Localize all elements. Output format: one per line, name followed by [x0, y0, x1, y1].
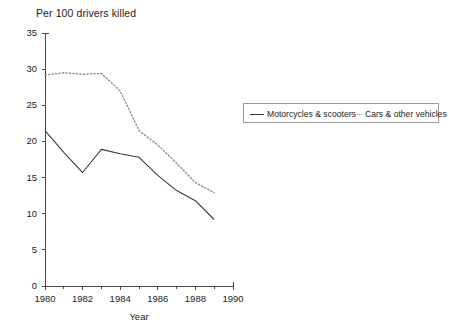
y-axis-tick-label: 35 — [15, 27, 37, 38]
y-axis-tick-label: 10 — [15, 208, 37, 219]
chart-container: Per 100 drivers killed 05101520253035 19… — [0, 0, 449, 327]
x-axis-tick-label: 1986 — [138, 293, 178, 304]
y-axis-tick-label: 30 — [15, 63, 37, 74]
axes — [42, 33, 233, 290]
chart-legend: Motorcycles & scooters Cars & other vehi… — [243, 103, 439, 123]
x-axis-tick-label: 1982 — [63, 293, 103, 304]
series-line-cars — [45, 73, 214, 193]
legend-item-motorcycles: Motorcycles & scooters — [250, 104, 356, 124]
x-axis-tick-label: 1980 — [25, 293, 65, 304]
x-axis-tick-label: 1988 — [175, 293, 215, 304]
legend-item-cars: Cars & other vehicles — [348, 104, 447, 124]
legend-label: Cars & other vehicles — [365, 109, 447, 119]
plot-area — [0, 0, 449, 327]
y-axis-tick-label: 15 — [15, 172, 37, 183]
legend-line-solid-icon — [250, 110, 264, 118]
chart-title: Per 100 drivers killed — [36, 7, 136, 19]
x-axis-tick-label: 1990 — [213, 293, 253, 304]
y-axis-tick-label: 5 — [15, 244, 37, 255]
y-axis-tick-label: 0 — [15, 280, 37, 291]
legend-line-dotted-icon — [348, 110, 362, 118]
legend-label: Motorcycles & scooters — [267, 109, 356, 119]
x-axis-title: Year — [109, 311, 169, 322]
y-axis-tick-label: 20 — [15, 135, 37, 146]
y-axis-tick-label: 25 — [15, 99, 37, 110]
data-series-layer — [45, 73, 214, 220]
x-axis-tick-label: 1984 — [100, 293, 140, 304]
